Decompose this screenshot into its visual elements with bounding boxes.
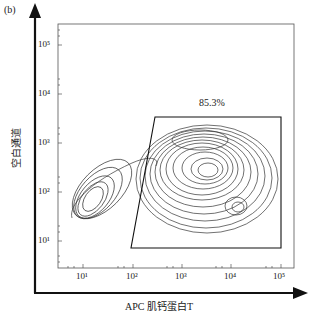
x-tick-label: 10¹ — [76, 271, 88, 281]
y-ticks — [58, 30, 62, 262]
plot-frame — [58, 24, 294, 268]
x-axis-label: APC 肌钙蛋白T — [125, 298, 193, 313]
y-tick-label: 10⁴ — [38, 88, 50, 98]
gate-percent-label: 85.3% — [199, 97, 225, 108]
x-tick-label: 10⁵ — [273, 271, 285, 281]
positive-population-contours — [136, 125, 278, 233]
panel-label: (b) — [4, 4, 16, 15]
x-axis-arrow-icon — [293, 287, 308, 299]
y-axis-label: 空白通道 — [8, 128, 23, 168]
y-tick-label: 10³ — [38, 137, 50, 147]
y-tick-label: 10¹ — [38, 235, 50, 245]
y-axis-arrow-icon — [29, 3, 41, 18]
y-tick-label: 10² — [38, 186, 50, 196]
y-tick-label: 10⁵ — [38, 39, 50, 49]
x-tick-label: 10² — [126, 271, 138, 281]
negative-population-contours — [62, 149, 157, 230]
x-ticks — [68, 264, 281, 268]
x-tick-label: 10³ — [175, 271, 187, 281]
x-tick-label: 10⁴ — [224, 271, 236, 281]
